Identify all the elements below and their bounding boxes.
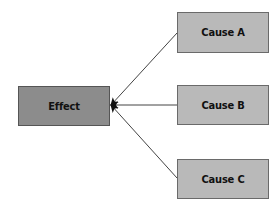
effect-label: Effect [48, 100, 79, 113]
effect-node: Effect [18, 86, 110, 126]
arrow-cause-a-to-effect [111, 33, 177, 105]
cause-b-label: Cause B [201, 99, 244, 112]
cause-b-node: Cause B [177, 85, 269, 125]
cause-a-label: Cause A [201, 26, 244, 39]
cause-a-node: Cause A [177, 12, 269, 53]
cause-c-node: Cause C [177, 159, 269, 199]
cause-c-label: Cause C [202, 173, 245, 186]
arrow-cause-c-to-effect [111, 105, 177, 178]
